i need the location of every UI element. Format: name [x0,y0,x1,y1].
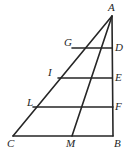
geometry-diagram-canvas [0,0,129,155]
vertex-label-g: G [64,37,72,48]
vertex-label-c: C [7,138,14,149]
vertex-label-d: D [115,42,123,53]
vertex-label-f: F [115,101,122,112]
segment-side-ac [13,16,112,136]
segment-cevian-am [72,16,112,136]
segment-group [13,16,113,136]
vertex-label-e: E [115,72,122,83]
vertex-label-l: L [27,97,33,108]
geometry-figure: A D E F B G I L C M [0,0,129,155]
vertex-label-b: B [114,138,121,149]
vertex-label-i: I [48,67,52,78]
vertex-label-a: A [108,2,115,13]
segment-side-ab [112,16,113,136]
vertex-label-m: M [66,138,75,149]
